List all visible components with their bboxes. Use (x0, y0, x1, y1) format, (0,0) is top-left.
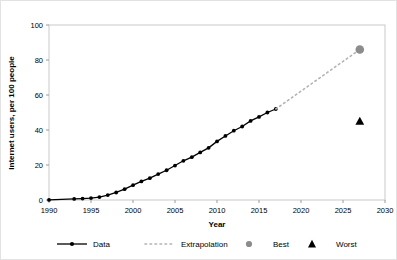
x-tick-label: 1995 (83, 206, 100, 215)
data-series-layer (47, 50, 360, 202)
series-line-extrapolation (276, 50, 360, 110)
x-tick-label: 2010 (209, 206, 226, 215)
x-tick-label: 1990 (41, 206, 58, 215)
data-point-marker (98, 195, 102, 199)
x-axis-title: Year (209, 220, 226, 229)
y-tick-label: 40 (35, 126, 43, 135)
data-point-marker (106, 193, 110, 197)
y-axis-title: Internet users, per 100 people (7, 56, 16, 170)
x-tick-label: 2015 (251, 206, 268, 215)
chart-legend: DataExtrapolationBestWorst (57, 240, 358, 249)
y-axis-ticks: 020406080100 (30, 21, 49, 205)
data-point-marker (173, 164, 177, 168)
data-point-marker (81, 197, 85, 201)
data-point-marker (240, 125, 244, 129)
data-point-marker (156, 172, 160, 176)
data-point-marker (249, 119, 253, 123)
data-point-marker (131, 183, 135, 187)
plot-frame (49, 25, 385, 200)
data-point-marker (140, 180, 144, 184)
data-point-marker (224, 134, 228, 138)
data-point-marker (190, 155, 194, 159)
x-tick-label: 2030 (377, 206, 394, 215)
data-point-marker (257, 115, 261, 119)
data-point-marker (47, 198, 51, 202)
x-tick-label: 2020 (293, 206, 310, 215)
x-tick-label: 2000 (125, 206, 142, 215)
y-tick-label: 100 (30, 21, 43, 30)
chart-canvas: 020406080100 199019952000200520102015202… (1, 1, 397, 260)
scenario-points-layer (355, 45, 364, 125)
series-line-data (49, 109, 276, 200)
data-point-marker (165, 168, 169, 172)
y-tick-label: 20 (35, 161, 43, 170)
scenario-point-best (356, 45, 365, 54)
scenario-point-worst (355, 117, 364, 125)
data-point-marker (266, 111, 270, 115)
data-point-marker (198, 151, 202, 155)
data-point-marker (72, 197, 76, 201)
data-point-marker (89, 196, 93, 200)
x-tick-label: 2025 (335, 206, 352, 215)
y-tick-label: 60 (35, 91, 43, 100)
data-point-marker (207, 146, 211, 150)
chart-figure: 020406080100 199019952000200520102015202… (0, 0, 397, 260)
data-point-marker (148, 176, 152, 180)
data-point-marker (215, 139, 219, 143)
legend-label-best: Best (273, 240, 290, 249)
legend-label-worst: Worst (336, 240, 358, 249)
x-tick-label: 2005 (167, 206, 184, 215)
y-tick-label: 80 (35, 56, 43, 65)
y-tick-label: 0 (39, 196, 43, 205)
data-point-marker (182, 159, 186, 163)
data-point-marker (123, 187, 127, 191)
legend-label-data: Data (93, 240, 110, 249)
data-point-marker (232, 129, 236, 133)
x-axis-ticks: 199019952000200520102015202020252030 (41, 200, 394, 215)
data-point-marker (114, 191, 118, 195)
legend-label-extrapolation: Extrapolation (181, 240, 228, 249)
